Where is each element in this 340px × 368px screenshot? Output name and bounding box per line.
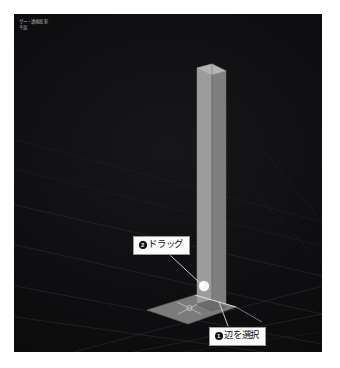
screenshot-root: ザー・透視投影 平面	[0, 0, 340, 368]
scene-geometry	[14, 14, 322, 352]
extruded-column	[197, 64, 226, 311]
callout-drag-badge: 2	[139, 241, 147, 249]
drag-handle-highlight	[200, 282, 204, 286]
callout-drag[interactable]: 2 ドラッグ	[133, 236, 190, 255]
callout-select-edge-label: 辺を選択	[224, 332, 259, 341]
3d-viewport[interactable]: ザー・透視投影 平面	[14, 14, 322, 352]
callout-drag-label: ドラッグ	[148, 241, 183, 250]
callout-select-edge[interactable]: 1 辺を選択	[209, 327, 266, 346]
callout-select-edge-badge: 1	[215, 332, 223, 340]
drag-handle	[199, 281, 209, 291]
